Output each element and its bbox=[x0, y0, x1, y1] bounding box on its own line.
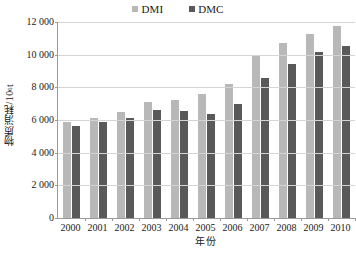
bar-dmc-2007 bbox=[261, 78, 269, 218]
bar-dmc-2000 bbox=[72, 126, 80, 218]
bar-dmi-2007 bbox=[252, 55, 260, 218]
x-axis-tick-label: 2010 bbox=[327, 221, 354, 235]
legend-label-dmc: DMC bbox=[198, 3, 223, 15]
x-axis-tick-labels: 2000200120022003200420052006200720082009… bbox=[57, 221, 354, 235]
bar-dmi-2004 bbox=[171, 100, 179, 218]
y-axis-tick-labels: 02 0004 0006 0008 00010 00012 000 bbox=[18, 22, 54, 218]
legend-swatch-dmc bbox=[189, 6, 195, 12]
bar-dmc-2002 bbox=[126, 118, 134, 218]
y-axis-title: 物质消耗/106 t bbox=[2, 55, 18, 175]
bar-dmc-2005 bbox=[207, 114, 215, 218]
y-axis-tick-mark bbox=[55, 22, 58, 23]
y-axis-tick-mark bbox=[55, 218, 58, 219]
y-axis-tick-label: 6 000 bbox=[18, 115, 54, 125]
gridline bbox=[58, 120, 355, 121]
y-axis-tick-label: 0 bbox=[18, 213, 54, 223]
y-axis-tick-label: 2 000 bbox=[18, 180, 54, 190]
x-axis-tick-label: 2001 bbox=[84, 221, 111, 235]
gridline bbox=[58, 55, 355, 56]
x-axis-tick-label: 2002 bbox=[111, 221, 138, 235]
x-axis-tick-label: 2008 bbox=[273, 221, 300, 235]
y-axis-tick-mark bbox=[55, 55, 58, 56]
x-axis-tick-label: 2003 bbox=[138, 221, 165, 235]
bar-dmi-2002 bbox=[117, 112, 125, 218]
y-axis-tick-label: 12 000 bbox=[18, 17, 54, 27]
y-axis-tick-label: 10 000 bbox=[18, 50, 54, 60]
plot-area bbox=[57, 22, 355, 219]
chart-legend: DMI DMC bbox=[0, 2, 356, 16]
legend-label-dmi: DMI bbox=[141, 3, 163, 15]
gridline bbox=[58, 153, 355, 154]
bar-dmc-2001 bbox=[99, 122, 107, 218]
x-axis-tick-label: 2009 bbox=[300, 221, 327, 235]
bar-dmc-2009 bbox=[315, 52, 323, 218]
x-axis-tick-label: 2004 bbox=[165, 221, 192, 235]
bar-dmi-2006 bbox=[225, 84, 233, 218]
y-axis-title-base: 物质消耗/10 bbox=[4, 91, 16, 147]
x-axis-tick-label: 2005 bbox=[192, 221, 219, 235]
y-axis-tick-label: 4 000 bbox=[18, 148, 54, 158]
x-axis-tick-label: 2006 bbox=[219, 221, 246, 235]
gridline bbox=[58, 22, 355, 23]
gridline bbox=[58, 87, 355, 88]
y-axis-tick-label: 8 000 bbox=[18, 82, 54, 92]
x-axis-tick-label: 2000 bbox=[57, 221, 84, 235]
y-axis-title-exponent: 6 bbox=[4, 87, 16, 91]
bar-dmi-2009 bbox=[306, 34, 314, 218]
bar-dmi-2001 bbox=[90, 118, 98, 218]
y-axis-tick-mark bbox=[55, 185, 58, 186]
y-axis-title-unit: t bbox=[4, 84, 16, 87]
x-axis-tick-label: 2007 bbox=[246, 221, 273, 235]
legend-entry-dmc: DMC bbox=[189, 3, 223, 15]
gridline bbox=[58, 185, 355, 186]
bar-dmi-2005 bbox=[198, 94, 206, 218]
bar-dmc-2010 bbox=[342, 46, 350, 218]
bar-chart: DMI DMC 物质消耗/106 t 02 0004 0006 0008 000… bbox=[0, 0, 356, 263]
legend-entry-dmi: DMI bbox=[132, 3, 163, 15]
y-axis-tick-mark bbox=[55, 153, 58, 154]
bar-dmc-2003 bbox=[153, 110, 161, 218]
y-axis-tick-mark bbox=[55, 120, 58, 121]
bar-dmi-2000 bbox=[63, 122, 71, 218]
legend-swatch-dmi bbox=[132, 6, 138, 12]
x-axis-title: 年份 bbox=[57, 236, 354, 248]
bar-dmi-2008 bbox=[279, 43, 287, 218]
y-axis-tick-mark bbox=[55, 87, 58, 88]
bar-dmc-2004 bbox=[180, 111, 188, 218]
